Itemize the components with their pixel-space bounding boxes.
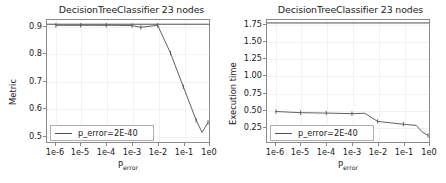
xtick-label: 1e-6 xyxy=(46,147,64,157)
legend-metric[interactable]: p_error=2E-40 xyxy=(50,125,154,141)
execution-time-series-svg xyxy=(267,20,429,142)
xtick-mark xyxy=(326,143,327,146)
ytick-label: 0.25 xyxy=(244,122,262,132)
y-axis-metric: 0.9 0.8 0.7 0.6 0.5 xyxy=(0,0,42,183)
ytick-label: 1.25 xyxy=(244,53,262,63)
legend-execution-time[interactable]: p_error=2E-40 xyxy=(270,125,374,141)
xtick-mark xyxy=(275,143,276,146)
legend-label: p_error=2E-40 xyxy=(298,128,358,138)
xtick-label: 1e-2 xyxy=(369,147,387,157)
metric-chart-panel: DecisionTreeClassifier 23 nodes 0.9 0.8 … xyxy=(0,0,223,183)
legend-label: p_error=2E-40 xyxy=(78,128,138,138)
ytick-label: 0.5 xyxy=(29,131,42,141)
ytick-label: 1.50 xyxy=(244,36,262,46)
xtick-label: 1e-3 xyxy=(123,147,141,157)
xtick-label: 1e-6 xyxy=(266,147,284,157)
metric-series-svg xyxy=(47,20,209,142)
xtick-label: 1e-4 xyxy=(317,147,335,157)
xtick-mark xyxy=(55,143,56,146)
xtick-label: 1e-3 xyxy=(343,147,361,157)
ytick-label: 0.8 xyxy=(29,48,42,58)
ytick-label: 0.75 xyxy=(244,88,262,98)
ytick-label: 0.50 xyxy=(244,105,262,115)
x-axis-label-sub: error xyxy=(123,164,138,171)
xtick-mark xyxy=(300,143,301,146)
ytick-label: 0.9 xyxy=(29,21,42,31)
xtick-mark xyxy=(209,143,210,146)
legend-line-swatch xyxy=(55,133,72,134)
metric-curve xyxy=(56,25,208,132)
ytick-label: 1.00 xyxy=(244,70,262,80)
ytick-label: 0.7 xyxy=(29,76,42,86)
xtick-label: 1e-4 xyxy=(97,147,115,157)
xtick-label: 1e-5 xyxy=(291,147,309,157)
xtick-mark xyxy=(429,143,430,146)
xtick-label: 1e0 xyxy=(421,147,436,157)
xtick-label: 1e-2 xyxy=(149,147,167,157)
y-axis-label-metric: Metric xyxy=(8,79,18,105)
xtick-mark xyxy=(106,143,107,146)
xtick-mark xyxy=(132,143,133,146)
xtick-label: 1e-1 xyxy=(175,147,193,157)
legend-line-swatch xyxy=(275,133,292,134)
ytick-label: 0.6 xyxy=(29,103,42,113)
execution-time-chart-panel: DecisionTreeClassifier 23 nodes 1.75 1.5… xyxy=(223,0,446,183)
ytick-label: 1.75 xyxy=(244,19,262,29)
xtick-label: 1e-5 xyxy=(71,147,89,157)
xtick-label: 1e-1 xyxy=(395,147,413,157)
x-axis-label-metric: Perror xyxy=(118,160,138,170)
xtick-mark xyxy=(404,143,405,146)
xtick-label: 1e0 xyxy=(201,147,216,157)
xtick-mark xyxy=(352,143,353,146)
xtick-mark xyxy=(378,143,379,146)
y-axis-label-execution-time: Execution time xyxy=(228,62,238,125)
xtick-mark xyxy=(158,143,159,146)
xtick-mark xyxy=(80,143,81,146)
xtick-mark xyxy=(184,143,185,146)
figure-canvas: DecisionTreeClassifier 23 nodes 0.9 0.8 … xyxy=(0,0,446,183)
x-axis-label-sub: error xyxy=(343,164,358,171)
x-axis-label-execution-time: Perror xyxy=(338,160,358,170)
metric-markers xyxy=(56,23,208,124)
